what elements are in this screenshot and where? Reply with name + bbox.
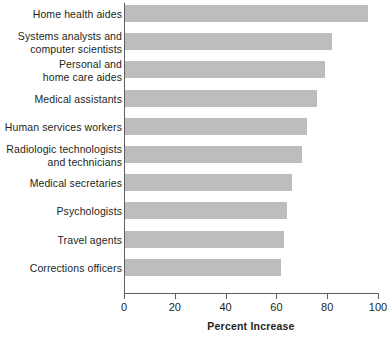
x-axis-tick [327,293,328,299]
x-axis-tick [124,293,125,299]
category-label: Radiologic technologists and technicians [0,143,122,168]
percent-increase-bar-chart: Home health aidesSystems analysts and co… [0,0,390,338]
chart-row: Human services workers [0,113,390,141]
chart-row: Systems analysts and computer scientists [0,28,390,56]
chart-row: Corrections officers [0,254,390,282]
chart-row: Medical secretaries [0,169,390,197]
x-axis-tick-label: 60 [256,301,296,313]
chart-row: Medical assistants [0,85,390,113]
chart-row: Personal and home care aides [0,56,390,84]
x-axis-line [124,293,378,294]
x-axis-tick [226,293,227,299]
x-axis-tick-label: 40 [206,301,246,313]
bar [124,61,325,78]
chart-row: Psychologists [0,197,390,225]
category-label: Medical assistants [0,92,122,104]
bar [124,259,281,276]
x-axis-tick-label: 20 [155,301,195,313]
chart-row: Travel agents [0,226,390,254]
category-label: Home health aides [0,8,122,20]
category-label: Human services workers [0,121,122,133]
bar [124,90,317,107]
category-label: Personal and home care aides [0,58,122,83]
bar [124,33,332,50]
x-axis-tick [378,293,379,299]
x-axis-tick [276,293,277,299]
x-axis-tick-label: 80 [307,301,347,313]
x-axis-title: Percent Increase [124,320,378,332]
category-label: Systems analysts and computer scientists [0,30,122,55]
category-label: Travel agents [0,233,122,245]
x-axis-tick-label: 0 [104,301,144,313]
bar [124,146,302,163]
bar [124,118,307,135]
chart-row: Home health aides [0,0,390,28]
category-label: Medical secretaries [0,177,122,189]
chart-row: Radiologic technologists and technicians [0,141,390,169]
bar [124,174,292,191]
bar [124,231,284,248]
x-axis-tick-label: 100 [358,301,390,313]
bar [124,202,287,219]
category-label: Corrections officers [0,262,122,274]
y-axis-line [124,3,125,294]
bar [124,5,368,22]
x-axis-tick [175,293,176,299]
category-label: Psychologists [0,205,122,217]
